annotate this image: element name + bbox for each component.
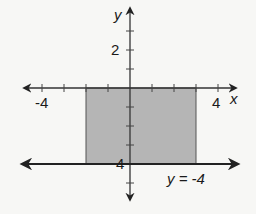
coordinate-graph: y x 2 -4 4 4 y = -4 — [0, 0, 256, 214]
x-tick-label-4: 4 — [212, 94, 220, 111]
x-tick-label-neg4: -4 — [35, 94, 48, 111]
y-tick-label-neg4: 4 — [116, 155, 124, 172]
x-axis-label: x — [229, 90, 238, 107]
y-axis-label: y — [113, 6, 123, 23]
boundary-equation-label: y = -4 — [166, 170, 205, 187]
y-tick-label-2: 2 — [111, 41, 119, 58]
shaded-region — [86, 88, 196, 164]
